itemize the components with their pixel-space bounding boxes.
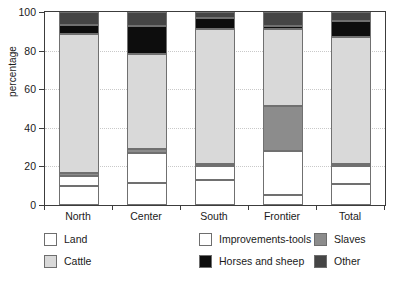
legend-swatch-cattle [44,255,57,268]
y-axis-title: percentage [7,32,18,112]
y-axis-tick-label-100: 100 [18,6,36,18]
legend-swatch-land [44,233,57,246]
legend-label-slaves: Slaves [334,234,366,245]
bar-segment-north-land[interactable] [59,186,99,205]
bar-segment-frontier-cattle[interactable] [263,29,303,105]
bar-segment-south-horses-and-sheep[interactable] [195,18,235,30]
legend-item-improvements-tools[interactable]: Improvements-tools [199,233,311,246]
bar-segment-frontier-improvements-tools[interactable] [263,151,303,195]
bar-segment-total-horses-and-sheep[interactable] [331,21,371,37]
bar-segment-total-cattle[interactable] [331,37,371,163]
bar-segment-center-cattle[interactable] [127,54,167,150]
bar-segment-south-other[interactable] [195,12,235,18]
bar-segment-total-improvements-tools[interactable] [331,166,371,183]
legend-label-cattle: Cattle [64,256,91,267]
bar-segment-frontier-other[interactable] [263,12,303,26]
bar-segment-north-other[interactable] [59,12,99,25]
x-axis-labels: NorthCenterSouthFrontierTotal [44,210,385,226]
y-axis-tick-60: 60 [39,89,45,90]
bar-segment-frontier-horses-and-sheep[interactable] [263,26,303,30]
legend-label-horses-and-sheep: Horses and sheep [219,256,304,267]
y-axis-tick-20: 20 [39,166,45,167]
y-axis-tick-label-60: 60 [24,83,36,95]
y-axis-tick-100: 100 [39,12,45,13]
bar-segment-south-improvements-tools[interactable] [195,166,235,180]
legend-swatch-slaves [314,233,327,246]
x-axis-label-north: North [43,210,113,222]
bar-segment-frontier-land[interactable] [263,195,303,205]
bar-segment-south-slaves[interactable] [195,164,235,167]
x-axis-label-south: South [179,210,249,222]
bar-segment-center-slaves[interactable] [127,149,167,153]
legend-label-land: Land [64,234,87,245]
bar-segment-center-horses-and-sheep[interactable] [127,26,167,54]
legend-swatch-other [314,255,327,268]
bar-segment-frontier-slaves[interactable] [263,106,303,151]
legend-item-horses-and-sheep[interactable]: Horses and sheep [199,255,304,268]
bar-segment-north-improvements-tools[interactable] [59,176,99,186]
y-axis-tick-label-40: 40 [24,122,36,134]
bar-south[interactable] [195,12,235,205]
bars-layer [45,12,385,205]
legend-label-improvements-tools: Improvements-tools [219,234,311,245]
bar-center[interactable] [127,12,167,205]
y-axis-tick-label-0: 0 [30,199,36,211]
y-axis-tick-80: 80 [39,51,45,52]
y-axis-tick-label-80: 80 [24,45,36,57]
bar-segment-north-horses-and-sheep[interactable] [59,25,99,35]
bar-north[interactable] [59,12,99,205]
bar-segment-north-slaves[interactable] [59,173,99,176]
legend-swatch-improvements-tools [199,233,212,246]
bar-segment-center-other[interactable] [127,12,167,26]
bar-segment-south-cattle[interactable] [195,29,235,163]
x-axis-label-total: Total [315,210,385,222]
bar-segment-total-land[interactable] [331,184,371,205]
bar-segment-center-improvements-tools[interactable] [127,153,167,183]
x-axis-label-frontier: Frontier [247,210,317,222]
legend-item-cattle[interactable]: Cattle [44,255,91,268]
y-axis-tick-40: 40 [39,128,45,129]
bar-segment-total-slaves[interactable] [331,164,371,167]
x-axis-label-center: Center [111,210,181,222]
y-axis-tick-label-20: 20 [24,160,36,172]
plot-area: 020406080100 [44,11,386,206]
bar-segment-north-cattle[interactable] [59,34,99,173]
legend-item-other[interactable]: Other [314,255,360,268]
legend-item-slaves[interactable]: Slaves [314,233,366,246]
bar-segment-center-land[interactable] [127,183,167,205]
bar-total[interactable] [331,12,371,205]
chart-legend: LandImprovements-toolsSlavesCattleHorses… [44,233,389,277]
bar-segment-south-land[interactable] [195,180,235,205]
legend-item-land[interactable]: Land [44,233,87,246]
stacked-bar-chart: percentage 020406080100 NorthCenterSouth… [0,0,396,285]
legend-label-other: Other [334,256,360,267]
legend-swatch-horses-and-sheep [199,255,212,268]
bar-frontier[interactable] [263,12,303,205]
bar-segment-total-other[interactable] [331,12,371,21]
